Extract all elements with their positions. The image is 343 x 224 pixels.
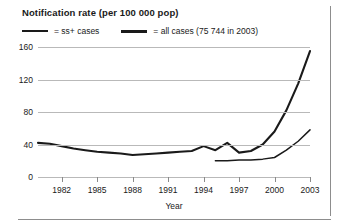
x-axis-tick-label-1991: 1991: [159, 185, 178, 195]
x-axis-tick-1988: [133, 177, 134, 182]
x-axis-tick-label-2000: 2000: [265, 185, 284, 195]
panel-border-bottom: [18, 219, 331, 220]
legend-item-all-cases: = all cases (75 744 in 2003): [121, 26, 258, 36]
x-axis-tick-label-2003: 2003: [301, 185, 320, 195]
x-axis-tick-1982: [62, 177, 63, 182]
gridline-y-160: [38, 47, 310, 48]
x-axis-tick-label-1997: 1997: [230, 185, 249, 195]
legend-line-icon-ss-plus: [22, 30, 48, 32]
legend-label-ss-plus: = ss+ cases: [54, 26, 99, 36]
x-axis-tick-1985: [97, 177, 98, 182]
chart-title: Notification rate (per 100 000 pop): [22, 7, 179, 18]
panel-border-right: [330, 6, 331, 216]
x-axis-tick-label-1988: 1988: [123, 185, 142, 195]
chart-legend: = ss+ cases = all cases (75 744 in 2003): [22, 25, 258, 37]
gridline-y-0: [38, 177, 310, 178]
y-axis-tick-label-160: 160: [19, 42, 33, 52]
x-axis-tick-label-1994: 1994: [194, 185, 213, 195]
legend-label-all-cases: = all cases (75 744 in 2003): [153, 26, 258, 36]
plot-area: 0408012016019821985198819911994199720002…: [38, 47, 310, 177]
y-axis-tick-label-40: 40: [24, 140, 33, 150]
series-line-all-cases: [38, 51, 310, 155]
gridline-y-40: [38, 145, 310, 146]
y-axis-tick-label-80: 80: [24, 107, 33, 117]
x-axis-tick-1991: [168, 177, 169, 182]
y-axis-tick-label-0: 0: [28, 172, 33, 182]
x-axis-label: Year: [165, 201, 182, 211]
x-axis-tick-2000: [275, 177, 276, 182]
chart-root: Notification rate (per 100 000 pop) = ss…: [0, 0, 343, 224]
gridline-y-80: [38, 112, 310, 113]
x-axis-tick-label-1982: 1982: [52, 185, 71, 195]
gridline-y-120: [38, 80, 310, 81]
x-axis-tick-1997: [239, 177, 240, 182]
x-axis-tick-label-1985: 1985: [88, 185, 107, 195]
x-axis-tick-2003: [310, 177, 311, 182]
legend-item-ss-plus: = ss+ cases: [22, 26, 99, 36]
x-axis-tick-1994: [204, 177, 205, 182]
legend-line-icon-all-cases: [121, 30, 147, 33]
y-axis-tick-label-120: 120: [19, 75, 33, 85]
